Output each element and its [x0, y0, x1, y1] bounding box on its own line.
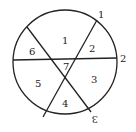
- line-label-3: 3: [92, 114, 98, 125]
- region-label-1: 1: [62, 35, 68, 46]
- region-label-3: 3: [91, 74, 97, 85]
- region-label-6: 6: [29, 46, 35, 57]
- region-label-4: 4: [62, 98, 68, 109]
- line-2: [13, 58, 117, 60]
- region-label-2: 2: [89, 43, 95, 54]
- line-label-2: 2: [120, 53, 126, 64]
- region-label-7: 7: [63, 61, 69, 72]
- region-label-5: 5: [35, 78, 41, 89]
- circle-diagram: 1 2 3 1 2 3 4 5 6 7: [0, 0, 136, 132]
- line-label-1: 1: [98, 9, 104, 20]
- line-1: [43, 20, 97, 117]
- line-3: [27, 27, 91, 112]
